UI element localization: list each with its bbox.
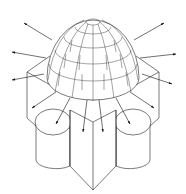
arrow-icon: [24, 23, 52, 40]
arrow-icon: [140, 54, 176, 58]
arrow-icon: [12, 52, 46, 58]
arrow-icon: [134, 23, 164, 40]
dome-diagram: [0, 0, 186, 194]
arrow-icon: [32, 92, 56, 108]
front-prism: [70, 110, 116, 190]
arrow-icon: [130, 92, 154, 108]
dome: [47, 19, 139, 100]
